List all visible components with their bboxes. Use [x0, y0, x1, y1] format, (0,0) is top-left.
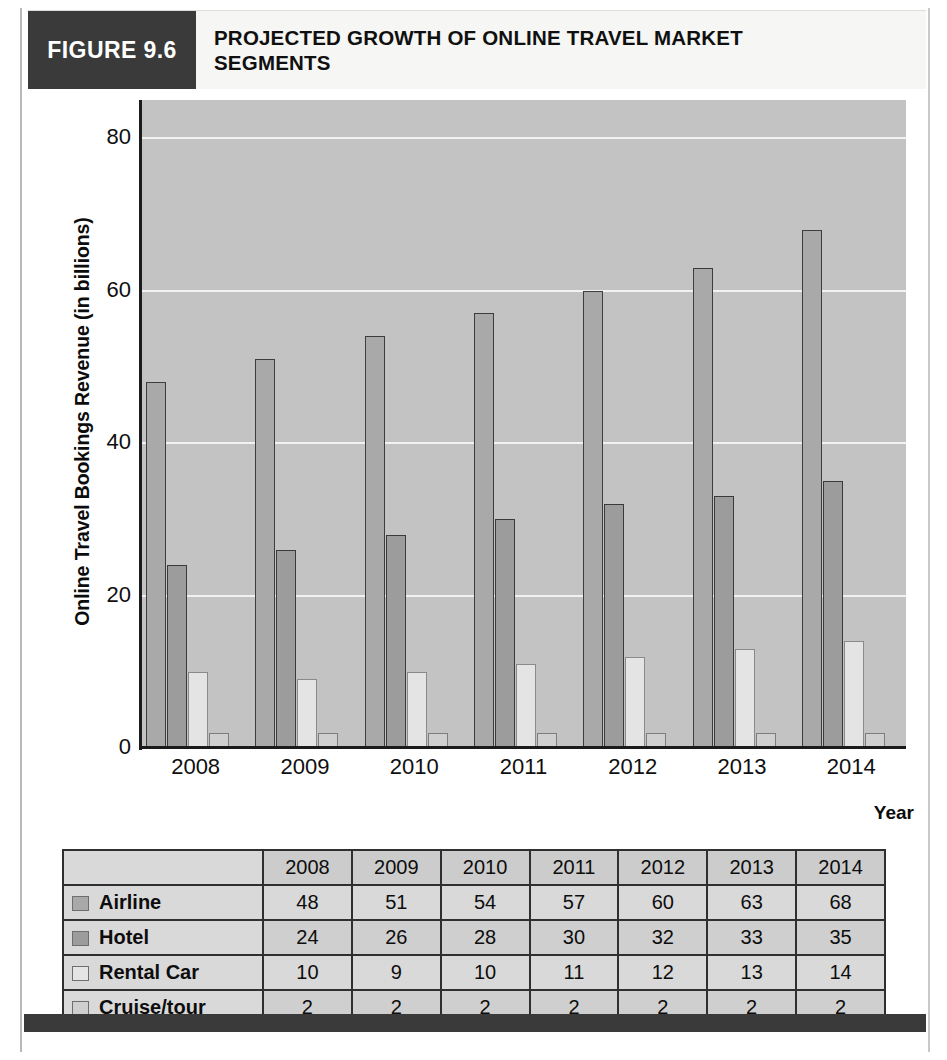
table-cell: 51: [352, 885, 441, 920]
bar-rental-car-2011: [516, 664, 536, 748]
table-column-header-2012: 2012: [618, 850, 707, 885]
x-tick-label-2012: 2012: [578, 754, 688, 780]
bar-hotel-2013: [714, 496, 734, 748]
bar-group-2011: [469, 100, 578, 748]
figure-title: PROJECTED GROWTH OF ONLINE TRAVEL MARKET…: [214, 11, 914, 89]
bar-group-2013: [687, 100, 796, 748]
bar-group-2009: [250, 100, 359, 748]
table-body: Airline48515457606368Hotel24262830323335…: [63, 885, 885, 1025]
y-tick-label: 80: [71, 124, 131, 150]
chart-block: Online Travel Bookings Revenue (in billi…: [28, 90, 926, 845]
data-table-container: 2008200920102011201220132014 Airline4851…: [62, 849, 886, 1026]
bar-airline-2011: [474, 313, 494, 748]
y-tick-label: 0: [71, 734, 131, 760]
table-column-header-2013: 2013: [707, 850, 796, 885]
table-cell: 60: [618, 885, 707, 920]
bar-hotel-2012: [604, 504, 624, 748]
bar-airline-2008: [146, 382, 166, 748]
bar-hotel-2010: [386, 535, 406, 748]
table-column-header-2014: 2014: [796, 850, 885, 885]
table-column-header-2011: 2011: [530, 850, 619, 885]
table-cell: 24: [263, 920, 352, 955]
table-column-header-2010: 2010: [441, 850, 530, 885]
table-corner-cell: [63, 850, 263, 885]
bar-group-2014: [797, 100, 906, 748]
table-cell: 30: [530, 920, 619, 955]
figure-title-line-2: SEGMENTS: [214, 50, 914, 75]
table-cell: 10: [263, 955, 352, 990]
bar-rental-car-2014: [844, 641, 864, 748]
table-cell: 63: [707, 885, 796, 920]
y-tick-label: 20: [71, 582, 131, 608]
bar-airline-2010: [365, 336, 385, 748]
figure-number-badge: FIGURE 9.6: [28, 11, 196, 89]
bar-group-2008: [141, 100, 250, 748]
x-tick-label-2014: 2014: [796, 754, 906, 780]
table-row: Rental Car1091011121314: [63, 955, 885, 990]
table-row-label-text: Hotel: [99, 927, 149, 949]
table-row: Airline48515457606368: [63, 885, 885, 920]
y-axis-title: Online Travel Bookings Revenue (in billi…: [71, 92, 94, 752]
table-cell: 54: [441, 885, 530, 920]
table-cell: 48: [263, 885, 352, 920]
figure-title-line-1: PROJECTED GROWTH OF ONLINE TRAVEL MARKET: [214, 25, 914, 50]
legend-swatch-icon: [72, 896, 89, 911]
y-tick-label: 40: [71, 429, 131, 455]
table-row-label-text: Airline: [99, 892, 161, 914]
table-cell: 13: [707, 955, 796, 990]
bar-group-2010: [360, 100, 469, 748]
bar-airline-2012: [583, 291, 603, 748]
legend-swatch-icon: [72, 931, 89, 946]
table-cell: 35: [796, 920, 885, 955]
table-cell: 68: [796, 885, 885, 920]
bar-hotel-2009: [276, 550, 296, 748]
table-column-header-2008: 2008: [263, 850, 352, 885]
figure-header: FIGURE 9.6 PROJECTED GROWTH OF ONLINE TR…: [28, 10, 926, 89]
bar-airline-2014: [802, 230, 822, 748]
table-cell: 10: [441, 955, 530, 990]
data-table: 2008200920102011201220132014 Airline4851…: [62, 849, 886, 1026]
y-axis-line: [139, 100, 142, 750]
table-cell: 11: [530, 955, 619, 990]
bar-rental-car-2009: [297, 679, 317, 748]
bar-group-2012: [578, 100, 687, 748]
table-cell: 33: [707, 920, 796, 955]
figure-footer-bar: [24, 1014, 926, 1032]
table-row-label-text: Rental Car: [99, 962, 199, 984]
bar-hotel-2014: [823, 481, 843, 748]
bar-hotel-2011: [495, 519, 515, 748]
x-tick-label-2009: 2009: [250, 754, 360, 780]
figure-container: FIGURE 9.6 PROJECTED GROWTH OF ONLINE TR…: [0, 0, 947, 1060]
x-tick-label-2011: 2011: [469, 754, 579, 780]
table-cell: 12: [618, 955, 707, 990]
x-axis-title: Year: [874, 802, 914, 824]
table-cell: 14: [796, 955, 885, 990]
bar-rental-car-2008: [188, 672, 208, 748]
x-tick-label-2010: 2010: [359, 754, 469, 780]
table-cell: 32: [618, 920, 707, 955]
bar-rental-car-2013: [735, 649, 755, 748]
table-column-header-2009: 2009: [352, 850, 441, 885]
table-cell: 9: [352, 955, 441, 990]
table-cell: 57: [530, 885, 619, 920]
table-row-label-rental-car: Rental Car: [63, 955, 263, 990]
x-axis-line: [139, 746, 906, 749]
legend-swatch-icon: [72, 966, 89, 981]
table-row-label-hotel: Hotel: [63, 920, 263, 955]
plot-area: [141, 100, 906, 748]
bar-rental-car-2010: [407, 672, 427, 748]
table-header-row: 2008200920102011201220132014: [63, 850, 885, 885]
y-tick-label: 60: [71, 277, 131, 303]
table-row: Hotel24262830323335: [63, 920, 885, 955]
table-row-label-airline: Airline: [63, 885, 263, 920]
table-cell: 26: [352, 920, 441, 955]
bar-airline-2013: [693, 268, 713, 748]
table-cell: 28: [441, 920, 530, 955]
x-tick-label-2013: 2013: [687, 754, 797, 780]
bar-hotel-2008: [167, 565, 187, 748]
bar-airline-2009: [255, 359, 275, 748]
table-header: 2008200920102011201220132014: [63, 850, 885, 885]
x-tick-label-2008: 2008: [141, 754, 251, 780]
figure-left-rule: [20, 8, 22, 1052]
bar-rental-car-2012: [625, 657, 645, 748]
